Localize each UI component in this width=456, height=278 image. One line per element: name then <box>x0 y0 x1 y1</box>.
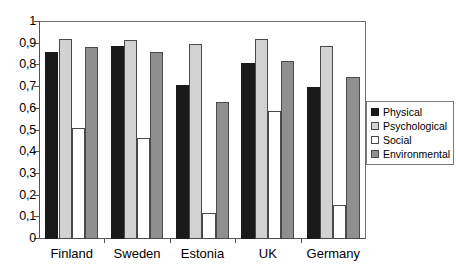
x-axis-tick-label: Finland <box>39 247 104 261</box>
y-axis-tick-label: 0,9 <box>4 37 36 50</box>
bar <box>137 138 150 239</box>
bar-group <box>104 22 169 239</box>
bar <box>124 40 137 239</box>
y-axis: 10,90,80,70,60,50,40,30,20,10 <box>0 0 36 278</box>
y-axis-tick-label: 0,4 <box>4 145 36 158</box>
x-axis-tick <box>301 238 302 243</box>
bar <box>59 39 72 239</box>
bar <box>320 46 333 239</box>
bar <box>45 52 58 239</box>
bar <box>111 46 124 239</box>
bar <box>216 102 229 239</box>
bar <box>255 39 268 239</box>
x-axis-tick-label: Sweden <box>104 247 169 261</box>
bar-group <box>39 22 104 239</box>
y-axis-tick-label: 0 <box>4 232 36 245</box>
bars-layer <box>39 21 366 239</box>
x-axis-tick <box>104 238 105 243</box>
bar-group <box>170 22 235 239</box>
x-axis-tick-label: Germany <box>301 247 366 261</box>
legend-item: Environmental <box>371 147 450 161</box>
bar-group <box>235 22 300 239</box>
legend-item-label: Social <box>383 135 412 146</box>
x-axis-tick <box>170 238 171 243</box>
legend-item: Psychological <box>371 119 450 133</box>
bar <box>241 63 254 239</box>
legend-item: Physical <box>371 105 450 119</box>
y-axis-tick-label: 0,7 <box>4 80 36 93</box>
y-axis-tick-label: 0,2 <box>4 189 36 202</box>
bar-group <box>301 22 366 239</box>
bar <box>85 47 98 239</box>
y-axis-tick-label: 0,3 <box>4 167 36 180</box>
legend-item-label: Environmental <box>383 149 450 160</box>
y-axis-tick-label: 0,5 <box>4 124 36 137</box>
legend-item-label: Psychological <box>383 121 447 132</box>
bar <box>202 213 215 239</box>
x-axis-tick-label: UK <box>235 247 300 261</box>
legend-swatch-icon <box>371 108 379 116</box>
bar <box>333 205 346 239</box>
bar <box>346 77 359 239</box>
bar <box>189 44 202 239</box>
bar <box>150 52 163 239</box>
x-axis-tick <box>235 238 236 243</box>
y-axis-tick-label: 0,6 <box>4 102 36 115</box>
bar <box>72 128 85 239</box>
bar <box>176 85 189 239</box>
legend: PhysicalPsychologicalSocialEnvironmental <box>366 101 454 165</box>
y-axis-tick-label: 0,8 <box>4 58 36 71</box>
y-axis-tick-label: 1 <box>4 15 36 28</box>
x-axis-tick-label: Estonia <box>170 247 235 261</box>
bar <box>268 111 281 239</box>
legend-item-label: Physical <box>383 107 422 118</box>
legend-swatch-icon <box>371 122 379 130</box>
bar-chart: 10,90,80,70,60,50,40,30,20,10 FinlandSwe… <box>0 0 456 278</box>
legend-swatch-icon <box>371 150 379 158</box>
legend-swatch-icon <box>371 136 379 144</box>
y-axis-tick-label: 0,1 <box>4 210 36 223</box>
bar <box>281 61 294 239</box>
legend-item: Social <box>371 133 450 147</box>
bar <box>307 87 320 239</box>
